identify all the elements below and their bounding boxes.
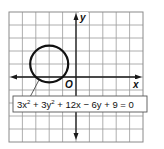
y-axis-up-arrow-icon — [74, 13, 79, 20]
x-axis-label: x — [132, 79, 139, 90]
y-axis-label: y — [79, 12, 86, 23]
origin-label: O — [65, 79, 73, 90]
circle-graph-figure: y x O 3x2 + 3y2 + 12x − 6y + 9 = 0 — [0, 0, 164, 149]
graph-svg: y x O 3x2 + 3y2 + 12x − 6y + 9 = 0 — [0, 0, 164, 149]
x-axis-left-arrow-icon — [10, 75, 17, 80]
leader-line — [30, 80, 39, 97]
equation-label: 3x2 + 3y2 + 12x − 6y + 9 = 0 — [17, 99, 134, 110]
y-axis-down-arrow-icon — [74, 133, 79, 140]
